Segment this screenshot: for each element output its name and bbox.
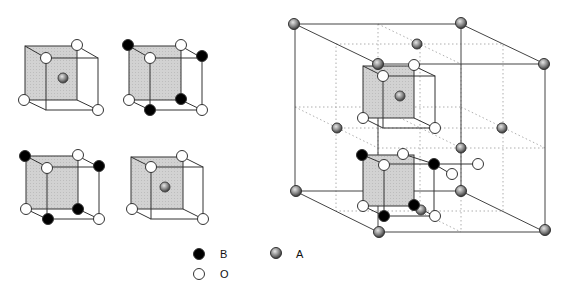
atom-b bbox=[43, 214, 54, 225]
atom-o bbox=[177, 151, 188, 162]
atom-o bbox=[430, 211, 441, 222]
atom-a bbox=[160, 182, 170, 192]
subcell-4-a-centered bbox=[127, 151, 209, 225]
perovskite-structure-diagram: B A O bbox=[0, 0, 573, 297]
atom-o bbox=[146, 162, 157, 173]
shaded-back-face bbox=[26, 156, 78, 209]
shaded-back-face bbox=[25, 46, 77, 100]
atom-a bbox=[456, 186, 467, 197]
legend-label-o: O bbox=[220, 268, 229, 280]
atom-o bbox=[447, 169, 458, 180]
atom-o bbox=[378, 71, 389, 82]
atom-o bbox=[21, 204, 32, 215]
atom-a bbox=[456, 18, 467, 29]
legend-item-a: A bbox=[271, 248, 305, 261]
atom-o bbox=[145, 53, 156, 64]
atom-b bbox=[429, 159, 440, 170]
atom-o bbox=[176, 40, 187, 51]
atom-b bbox=[197, 51, 208, 62]
atom-o bbox=[93, 105, 104, 116]
o-atom-icon bbox=[194, 269, 205, 280]
atom-b bbox=[123, 40, 134, 51]
atom-o bbox=[398, 149, 409, 160]
atom-a bbox=[373, 59, 384, 70]
atom-o bbox=[358, 113, 369, 124]
atom-a bbox=[540, 225, 551, 236]
atom-o bbox=[19, 95, 30, 106]
atom-a bbox=[539, 59, 550, 70]
atom-b bbox=[145, 105, 156, 116]
atom-b bbox=[176, 94, 187, 105]
atom-a bbox=[58, 73, 68, 83]
atom-b bbox=[73, 204, 84, 215]
atom-o bbox=[127, 204, 138, 215]
shaded-back-face bbox=[129, 46, 181, 100]
atom-a bbox=[497, 123, 507, 133]
subcell-1-a-centered bbox=[19, 40, 104, 116]
legend-item-o: O bbox=[194, 268, 230, 280]
atom-b bbox=[357, 150, 368, 161]
atom-o bbox=[358, 201, 369, 212]
atom-o bbox=[73, 150, 84, 161]
atom-o bbox=[41, 53, 52, 64]
atom-a bbox=[289, 19, 300, 30]
legend-label-b: B bbox=[220, 248, 227, 260]
legend-label-a: A bbox=[296, 248, 304, 260]
atom-o bbox=[124, 95, 135, 106]
atom-b bbox=[20, 151, 31, 162]
atom-o bbox=[409, 60, 420, 71]
atom-o bbox=[94, 214, 105, 225]
b-atom-icon bbox=[194, 249, 205, 260]
atom-o bbox=[379, 160, 390, 171]
a-atom-icon bbox=[271, 248, 282, 259]
atom-a bbox=[291, 186, 302, 197]
atom-o bbox=[197, 105, 208, 116]
large-unit-cell bbox=[289, 18, 551, 238]
atom-o bbox=[473, 159, 484, 170]
atom-o bbox=[198, 214, 209, 225]
atom-o bbox=[42, 163, 53, 174]
atom-o bbox=[72, 40, 83, 51]
atom-a bbox=[395, 91, 405, 101]
atom-a bbox=[374, 227, 385, 238]
legend-item-b: B bbox=[194, 248, 228, 260]
atom-a bbox=[412, 39, 422, 49]
subcell-2-b-o-corners bbox=[123, 40, 208, 116]
atom-b bbox=[94, 161, 105, 172]
atom-b bbox=[409, 200, 420, 211]
inner-subcell-upper bbox=[358, 60, 441, 134]
legend: B A O bbox=[194, 248, 305, 281]
subcell-3-b-o-corners bbox=[20, 150, 105, 225]
atom-o bbox=[430, 123, 441, 134]
atom-b bbox=[379, 211, 390, 222]
atom-a bbox=[456, 143, 466, 153]
atom-a bbox=[332, 123, 342, 133]
shaded-back-face bbox=[131, 157, 183, 209]
